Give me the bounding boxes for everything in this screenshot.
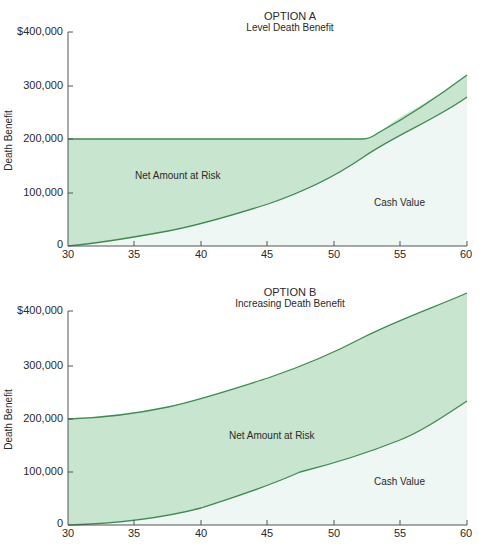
y-tick-label: $400,000 (17, 304, 63, 316)
x-tick-label: 35 (119, 248, 149, 260)
x-tick-label: 55 (385, 248, 415, 260)
chart-option-b: OPTION B Increasing Death Benefit $400,0… (0, 272, 479, 544)
cash-value-label: Cash Value (374, 197, 425, 208)
y-tick-label: 300,000 (23, 359, 63, 371)
x-tick-label: 50 (319, 248, 349, 260)
x-tick-label: 40 (186, 248, 216, 260)
x-tick-label: 45 (252, 248, 282, 260)
x-tick-label: 50 (319, 527, 349, 539)
y-tick-label: $400,000 (17, 25, 63, 37)
y-tick-label: 200,000 (23, 132, 63, 144)
y-tick-label: 300,000 (23, 79, 63, 91)
chart-a-subtitle: Level Death Benefit (170, 22, 410, 34)
chart-b-title: OPTION B (200, 286, 380, 298)
x-tick-label: 45 (252, 527, 282, 539)
net-amount-at-risk-label: Net Amount at Risk (229, 430, 315, 441)
x-tick-label: 60 (451, 248, 479, 260)
x-tick-label: 30 (53, 527, 83, 539)
x-tick-label: 55 (385, 527, 415, 539)
cash-value-label: Cash Value (374, 476, 425, 487)
chart-a-plot (0, 0, 479, 272)
y-axis-label: Death Benefit (3, 370, 14, 470)
net-amount-at-risk-label: Net Amount at Risk (135, 170, 221, 181)
x-tick-label: 35 (119, 527, 149, 539)
y-tick-label: 200,000 (23, 412, 63, 424)
chart-a-title: OPTION A (200, 10, 380, 22)
x-tick-label: 60 (451, 527, 479, 539)
chart-b-plot (0, 272, 479, 544)
y-axis-label: Death Benefit (3, 91, 14, 191)
y-tick-label: 100,000 (23, 186, 63, 198)
x-tick-label: 30 (53, 248, 83, 260)
chart-b-subtitle: Increasing Death Benefit (170, 298, 410, 310)
x-tick-label: 40 (186, 527, 216, 539)
y-tick-label: 100,000 (23, 465, 63, 477)
chart-option-a: OPTION A Level Death Benefit $400,000 30… (0, 0, 479, 272)
